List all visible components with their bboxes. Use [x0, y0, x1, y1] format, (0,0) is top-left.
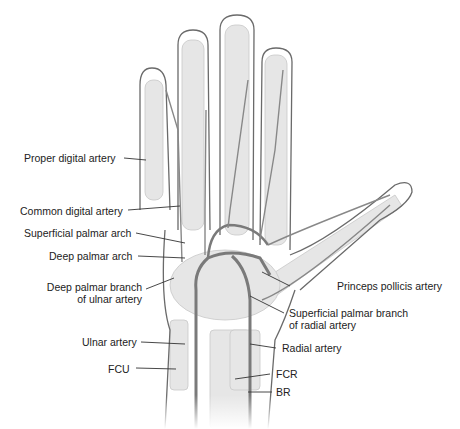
label-proper-digital-artery: Proper digital artery: [24, 152, 116, 164]
label-superficial-palmar-branch-radial: Superficial palmar branch of radial arte…: [289, 307, 408, 331]
label-radial-artery: Radial artery: [282, 342, 342, 354]
label-fcu: FCU: [108, 363, 130, 375]
bones: [145, 25, 402, 429]
label-line-2: of radial artery: [289, 319, 408, 331]
label-fcr: FCR: [276, 368, 298, 380]
label-line-1: Superficial palmar branch: [289, 307, 408, 319]
label-deep-palmar-branch-ulnar: Deep palmar branch of ulnar artery: [40, 281, 142, 305]
label-line-1: Deep palmar branch: [40, 281, 142, 293]
hand-artery-diagram: Proper digital artery Common digital art…: [0, 0, 460, 429]
label-br: BR: [276, 386, 291, 398]
label-superficial-palmar-arch: Superficial palmar arch: [24, 227, 131, 239]
label-ulnar-artery: Ulnar artery: [82, 336, 137, 348]
label-common-digital-artery: Common digital artery: [20, 205, 123, 217]
label-line-2: of ulnar artery: [40, 293, 142, 305]
label-deep-palmar-arch: Deep palmar arch: [49, 250, 132, 262]
label-princeps-pollicis-artery: Princeps pollicis artery: [337, 280, 442, 292]
